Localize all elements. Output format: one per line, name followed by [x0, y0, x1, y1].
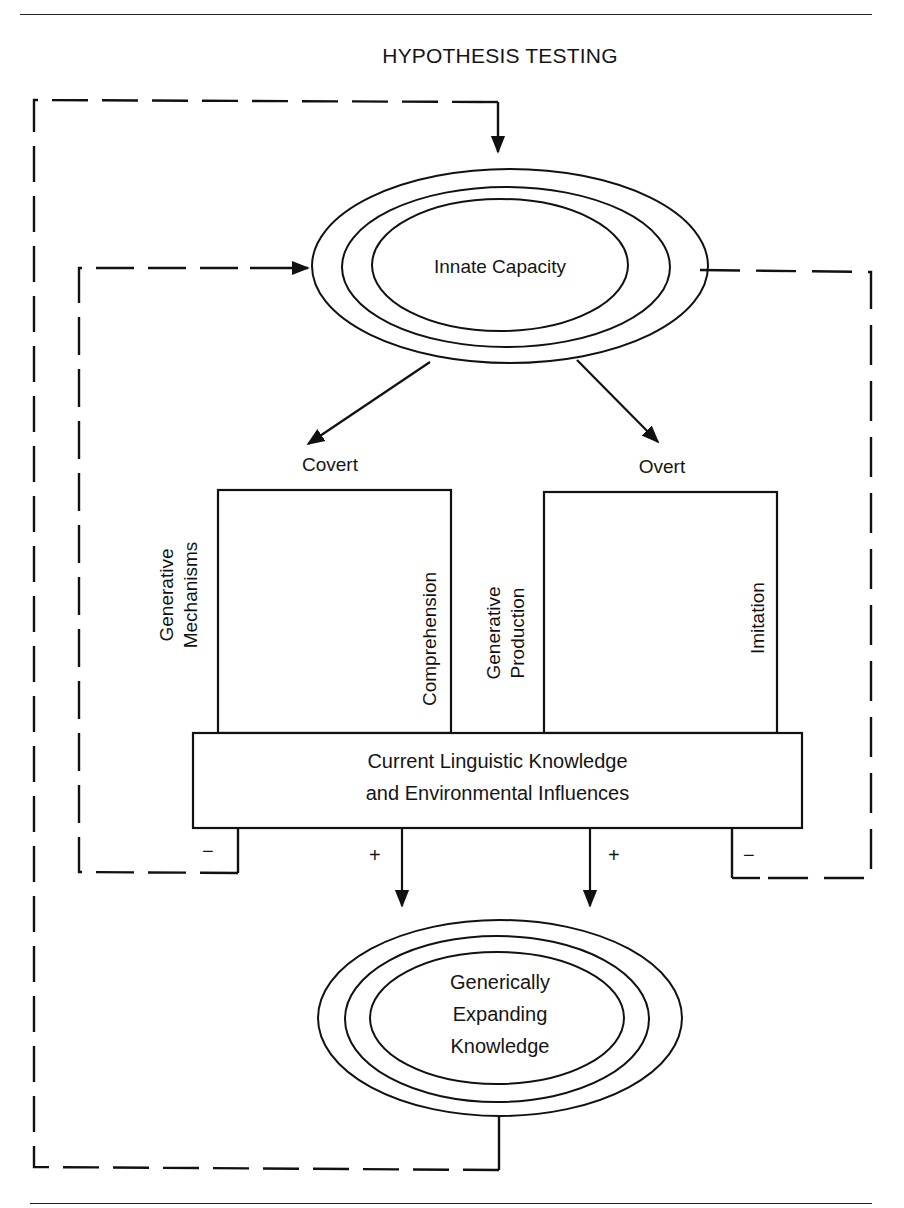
- comprehension-label: Comprehension: [418, 476, 442, 706]
- imitation-label: Imitation: [746, 534, 770, 654]
- overt-label: Overt: [612, 452, 712, 481]
- right-plus-sign: +: [608, 844, 620, 867]
- overt-box: [544, 492, 777, 733]
- innate-capacity-label: Innate Capacity: [400, 252, 600, 281]
- generative-production-label: Generative Production: [482, 548, 530, 718]
- hypothesis-testing-diagram: HYPOTHESIS TESTING Innate Capacity Cover…: [0, 0, 904, 1208]
- expanding-knowledge-label: Generically Expanding Knowledge: [400, 966, 600, 1062]
- arrow-to-overt: [577, 360, 658, 442]
- right-minus-sign: −: [743, 844, 755, 867]
- diagram-title: HYPOTHESIS TESTING: [48, 44, 904, 68]
- covert-label: Covert: [280, 450, 380, 479]
- arrow-to-covert: [308, 362, 430, 444]
- base-box-label: Current Linguistic Knowledge and Environ…: [193, 745, 802, 809]
- left-plus-sign: +: [369, 844, 381, 867]
- covert-box: [218, 490, 451, 733]
- generative-mechanisms-label: Generative Mechanisms: [155, 500, 203, 690]
- left-minus-sign: −: [202, 840, 214, 863]
